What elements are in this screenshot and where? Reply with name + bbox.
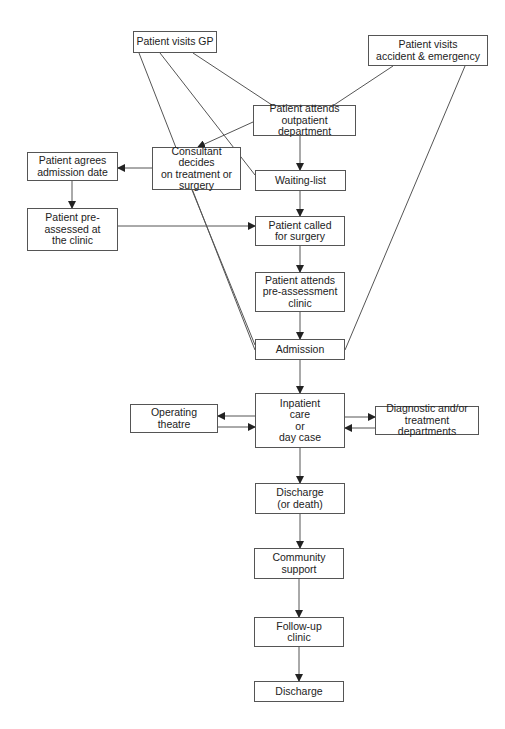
node-label: Patient attends outpatient department — [256, 103, 353, 138]
edge-outpatient-to-consultant-arrow — [198, 122, 253, 147]
node-waiting: Waiting-list — [255, 170, 346, 191]
node-label: Diagnostic and/or treatment departments — [378, 403, 476, 438]
node-label: Waiting-list — [275, 175, 326, 187]
edge-gp-to-outpatient-line — [193, 53, 272, 105]
node-admission: Admission — [255, 339, 345, 360]
node-outpatient: Patient attends outpatient department — [253, 105, 356, 136]
node-called: Patient called for surgery — [255, 216, 345, 246]
node-diagnostic: Diagnostic and/or treatment departments — [375, 406, 479, 435]
node-label: Discharge — [275, 686, 322, 698]
node-community: Community support — [254, 548, 344, 579]
edge-ae-to-outpatient-line — [334, 66, 393, 105]
node-label: Inpatient care or day case — [279, 398, 321, 444]
node-label: Discharge (or death) — [276, 487, 323, 510]
node-label: Community support — [272, 552, 325, 575]
node-consultant: Consultant decides on treatment or surge… — [152, 147, 241, 190]
node-label: Patient pre- assessed at the clinic — [44, 212, 100, 247]
node-label: Admission — [276, 344, 324, 356]
node-preclinic: Patient attends pre-assessment clinic — [255, 272, 345, 312]
edge-ae-to-admission-line — [345, 66, 465, 350]
node-discharge2: Discharge — [254, 681, 344, 702]
node-label: Follow-up clinic — [276, 621, 322, 644]
node-ae: Patient visits accident & emergency — [368, 35, 488, 66]
node-label: Patient called for surgery — [268, 220, 331, 243]
node-gp: Patient visits GP — [133, 31, 217, 53]
node-preassessed: Patient pre- assessed at the clinic — [27, 208, 118, 251]
node-label: Patient visits GP — [136, 36, 213, 48]
edge-consultant-to-admission-line — [192, 190, 255, 345]
node-label: Operating theatre — [151, 407, 197, 430]
node-discharge1: Discharge (or death) — [255, 483, 345, 514]
node-followup: Follow-up clinic — [254, 617, 344, 647]
node-label: Consultant decides on treatment or surge… — [155, 146, 238, 192]
node-label: Patient agrees admission date — [37, 155, 108, 178]
node-inpatient: Inpatient care or day case — [255, 393, 345, 448]
node-label: Patient visits accident & emergency — [376, 39, 480, 62]
node-theatre: Operating theatre — [130, 404, 218, 433]
node-label: Patient attends pre-assessment clinic — [263, 275, 338, 310]
node-agrees: Patient agrees admission date — [27, 152, 118, 181]
